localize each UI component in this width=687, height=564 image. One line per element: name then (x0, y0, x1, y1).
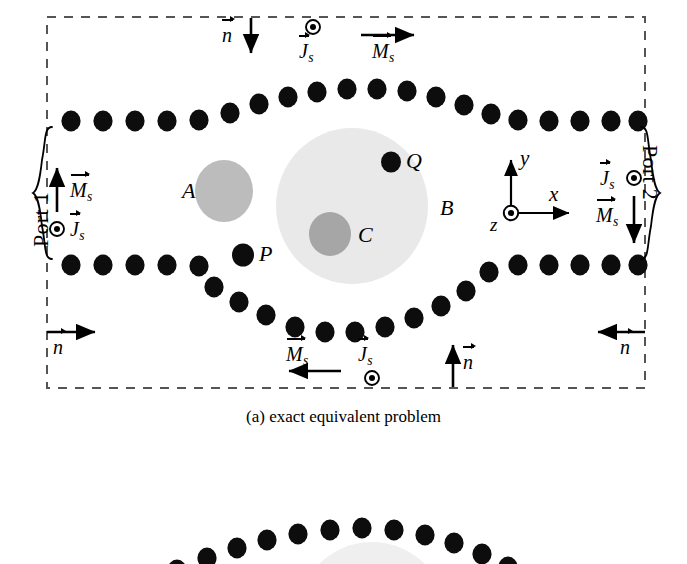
vec-sub-s: s (87, 189, 92, 204)
vec-n-glyph: n (222, 24, 232, 46)
vec-sub-s: s (389, 50, 394, 65)
point-scatterer-Q (381, 151, 401, 172)
vec-M-glyph: M (286, 343, 303, 365)
axis-x-label: x (549, 184, 558, 205)
region-A-label: A (182, 180, 195, 202)
port2-label: Port 2 (639, 145, 661, 200)
vector-Ms-top-label: Ms (372, 41, 394, 61)
vec-n-glyph: n (620, 336, 630, 358)
figure-caption-a: (a) exact equivalent problem (0, 407, 687, 427)
vec-sub-s: s (367, 353, 372, 368)
vector-n-top-label: n (222, 25, 232, 45)
axis-y-label: y (520, 148, 529, 169)
dot-array-top (61, 79, 647, 132)
vec-sub-s: s (609, 177, 614, 192)
port1-label: Port 1 (30, 192, 52, 247)
vector-n-bottom-left-label: n (53, 337, 63, 357)
vector-Js-right-label: Js (600, 168, 614, 188)
vec-J-glyph: J (600, 167, 609, 189)
point-Q-label: Q (406, 150, 422, 172)
point-scatterer-P (232, 243, 254, 266)
vector-Ms-bottom-label: Ms (286, 344, 308, 364)
vec-sub-s: s (308, 50, 313, 65)
region-C-shape (309, 212, 351, 256)
coordinate-axes (504, 160, 569, 220)
vec-n-glyph: n (463, 351, 473, 373)
vec-M-glyph: M (70, 179, 87, 201)
vec-J-glyph: J (358, 343, 367, 365)
region-B-label: B (440, 197, 453, 219)
vec-J-glyph: J (70, 218, 79, 240)
figure-container: Port 1 Port 2 A B C P Q y x z n n n n Js… (0, 0, 687, 564)
figure-drawing (0, 0, 687, 564)
vector-Js-top-label: Js (299, 41, 313, 61)
point-P-label: P (259, 243, 272, 265)
vec-M-glyph: M (372, 40, 389, 62)
circledot-Js-bottom (365, 371, 379, 385)
vec-M-glyph: M (596, 204, 613, 226)
vector-Js-left-label: Js (70, 219, 84, 239)
vector-Js-bottom-label: Js (358, 344, 372, 364)
vec-n-glyph: n (53, 336, 63, 358)
vector-n-bottom-middle-label: n (463, 352, 473, 372)
vec-sub-s: s (303, 353, 308, 368)
vector-n-bottom-right-label: n (620, 337, 630, 357)
vector-Ms-right-label: Ms (596, 205, 618, 225)
region-A-shape (195, 160, 253, 222)
vector-Ms-left-label: Ms (70, 180, 92, 200)
vec-J-glyph: J (299, 40, 308, 62)
axis-z-label: z (490, 215, 497, 234)
vec-sub-s: s (613, 214, 618, 229)
vec-sub-s: s (79, 228, 84, 243)
region-C-label: C (358, 224, 373, 246)
